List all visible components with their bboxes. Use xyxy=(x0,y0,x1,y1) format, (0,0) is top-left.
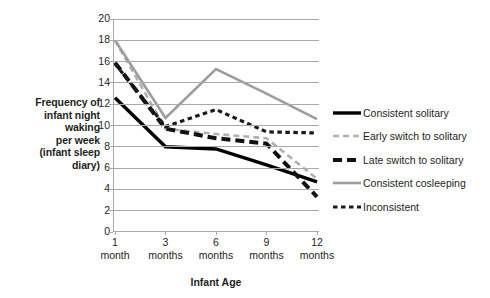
legend-item[interactable]: Inconsistent xyxy=(333,195,489,219)
chart-legend: Consistent solitaryEarly switch to solit… xyxy=(333,101,489,219)
x-tick-label-line: months xyxy=(284,249,350,262)
y-tick-label: 18 xyxy=(86,33,110,45)
x-axis-tick-labels: 1month3months6months9months12months xyxy=(113,236,319,276)
line-chart: Frequency of infant night waking per wee… xyxy=(0,0,490,298)
y-tick-mark xyxy=(109,82,113,83)
gridline xyxy=(113,125,319,126)
x-tick-mark xyxy=(266,231,267,235)
y-tick-mark xyxy=(109,189,113,190)
plot-area xyxy=(113,19,319,232)
gridline xyxy=(113,82,319,83)
gridline xyxy=(113,19,319,20)
legend-item[interactable]: Early switch to solitary xyxy=(333,125,489,149)
y-tick-mark xyxy=(109,168,113,169)
y-tick-label: 2 xyxy=(86,204,110,216)
legend-swatch xyxy=(333,201,361,213)
legend-label: Late switch to solitary xyxy=(363,154,463,166)
y-tick-mark xyxy=(109,61,113,62)
y-tick-mark xyxy=(109,104,113,105)
x-tick-mark xyxy=(115,231,116,235)
y-tick-label: 20 xyxy=(86,12,110,24)
legend-item[interactable]: Consistent solitary xyxy=(333,101,489,125)
x-tick-mark xyxy=(317,231,318,235)
gridline xyxy=(113,168,319,169)
y-tick-label: 14 xyxy=(86,76,110,88)
gridline xyxy=(113,210,319,211)
series-line xyxy=(115,40,317,119)
y-axis-tick-labels: 02468101214161820 xyxy=(84,19,110,232)
y-tick-label: 6 xyxy=(86,161,110,173)
legend-label: Consistent solitary xyxy=(363,107,449,119)
y-tick-mark xyxy=(109,19,113,20)
gridline xyxy=(113,61,319,62)
legend-label: Early switch to solitary xyxy=(363,130,467,142)
legend-item[interactable]: Consistent cosleeping xyxy=(333,172,489,196)
x-tick-mark xyxy=(165,231,166,235)
y-tick-label: 12 xyxy=(86,97,110,109)
x-axis-title: Infant Age xyxy=(113,276,319,288)
y-tick-mark xyxy=(109,232,113,233)
gridline xyxy=(113,40,319,41)
x-tick-label: 12months xyxy=(284,236,350,262)
legend-label: Consistent cosleeping xyxy=(363,177,466,189)
y-tick-label: 4 xyxy=(86,182,110,194)
series-line xyxy=(115,64,317,133)
y-tick-mark xyxy=(109,125,113,126)
legend-label: Inconsistent xyxy=(363,201,419,213)
y-tick-label: 10 xyxy=(86,119,110,131)
gridline xyxy=(113,146,319,147)
legend-swatch xyxy=(333,130,361,142)
y-tick-label: 8 xyxy=(86,140,110,152)
y-tick-mark xyxy=(109,146,113,147)
legend-swatch xyxy=(333,154,361,166)
x-tick-mark xyxy=(216,231,217,235)
y-tick-label: 16 xyxy=(86,55,110,67)
gridline xyxy=(113,189,319,190)
y-tick-mark xyxy=(109,210,113,211)
legend-item[interactable]: Late switch to solitary xyxy=(333,148,489,172)
gridline xyxy=(113,104,319,105)
legend-swatch xyxy=(333,177,361,189)
legend-swatch xyxy=(333,107,361,119)
y-tick-mark xyxy=(109,40,113,41)
x-tick-label-line: 12 xyxy=(284,236,350,249)
